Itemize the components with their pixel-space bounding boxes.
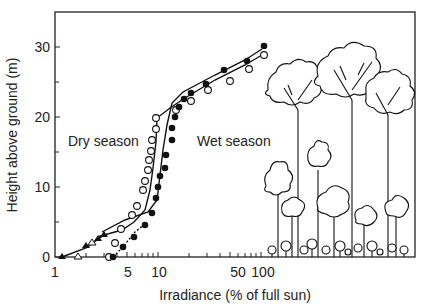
dry-season-label: Dry season xyxy=(68,133,139,149)
forest-illustration xyxy=(265,42,415,257)
x-axis-title: Irradiance (% of full sun) xyxy=(159,287,311,303)
y-tick-label: 10 xyxy=(34,179,50,195)
x-tick-label: 5 xyxy=(124,264,132,280)
wet-season-label: Wet season xyxy=(197,133,271,149)
y-tick-label: 30 xyxy=(34,39,50,55)
y-axis xyxy=(55,47,60,257)
filled-triangle-markers xyxy=(58,231,108,259)
y-tick-label: 20 xyxy=(34,109,50,125)
filled-circle-markers xyxy=(110,43,268,261)
chart: 0 10 20 30 1 5 10 50 100 Irradiance (% o… xyxy=(0,0,423,308)
x-tick-label: 10 xyxy=(151,264,167,280)
x-tick-label: 100 xyxy=(251,264,275,280)
x-tick-label: 50 xyxy=(230,264,246,280)
y-tick-label: 0 xyxy=(42,249,50,265)
x-tick-label: 1 xyxy=(51,264,59,280)
open-circle-markers xyxy=(106,52,268,261)
y-axis-title: Height above ground (m) xyxy=(4,58,20,213)
